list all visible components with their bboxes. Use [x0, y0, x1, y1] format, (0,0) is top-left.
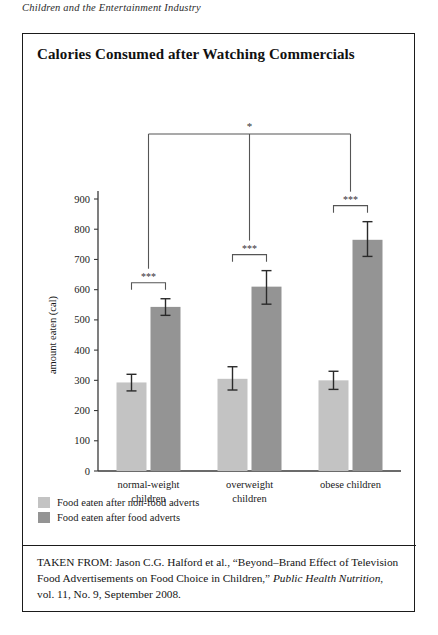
- y-tick-label: 300: [74, 375, 90, 386]
- bar-food-adverts: [353, 240, 383, 471]
- y-tick-label: 900: [74, 194, 90, 205]
- legend-label-food-adverts: Food eaten after food adverts: [57, 512, 180, 523]
- across-group-significance-label: *: [247, 120, 253, 132]
- significance-label: ***: [141, 271, 156, 282]
- bar-non-food-adverts: [117, 382, 147, 471]
- significance-label: ***: [343, 194, 358, 205]
- y-tick-label: 500: [74, 314, 90, 325]
- significance-label: ***: [242, 243, 257, 254]
- y-tick-label: 400: [74, 345, 90, 356]
- legend-item: Food eaten after non-food adverts: [38, 496, 199, 509]
- bar-food-adverts: [252, 287, 282, 471]
- source-citation: TAKEN FROM: Jason C.G. Halford et al., “…: [37, 554, 403, 602]
- citation-journal: Public Health Nutrition: [273, 572, 380, 584]
- significance-bracket: [233, 255, 267, 262]
- bar-chart: 0100200300400500600700800900amount eaten…: [23, 34, 416, 504]
- significance-bracket: [334, 206, 368, 213]
- bar-non-food-adverts: [319, 380, 349, 471]
- x-category-label: children: [232, 493, 267, 504]
- y-tick-label: 0: [85, 466, 90, 477]
- bar-food-adverts: [151, 307, 181, 471]
- running-head: Children and the Entertainment Industry: [22, 2, 201, 13]
- y-tick-label: 800: [74, 224, 90, 235]
- x-category-label: obese children: [320, 479, 382, 490]
- figure-frame: Calories Consumed after Watching Commerc…: [22, 33, 415, 612]
- y-tick-label: 700: [74, 254, 90, 265]
- chart-svg: 0100200300400500600700800900amount eaten…: [23, 34, 416, 504]
- x-category-label: normal-weight: [118, 479, 180, 490]
- y-axis-title: amount eaten (cal): [47, 295, 59, 374]
- y-tick-label: 200: [74, 405, 90, 416]
- y-tick-label: 100: [74, 435, 90, 446]
- chart-legend: Food eaten after non-food adverts Food e…: [38, 496, 199, 526]
- legend-swatch-food-adverts: [38, 512, 50, 523]
- legend-item: Food eaten after food adverts: [38, 511, 199, 524]
- x-category-label: overweight: [226, 479, 273, 490]
- y-tick-label: 600: [74, 284, 90, 295]
- citation-divider: [23, 545, 416, 546]
- bar-non-food-adverts: [218, 379, 248, 471]
- legend-swatch-non-food-adverts: [38, 497, 50, 508]
- legend-label-non-food-adverts: Food eaten after non-food adverts: [57, 497, 199, 508]
- significance-bracket: [132, 283, 166, 290]
